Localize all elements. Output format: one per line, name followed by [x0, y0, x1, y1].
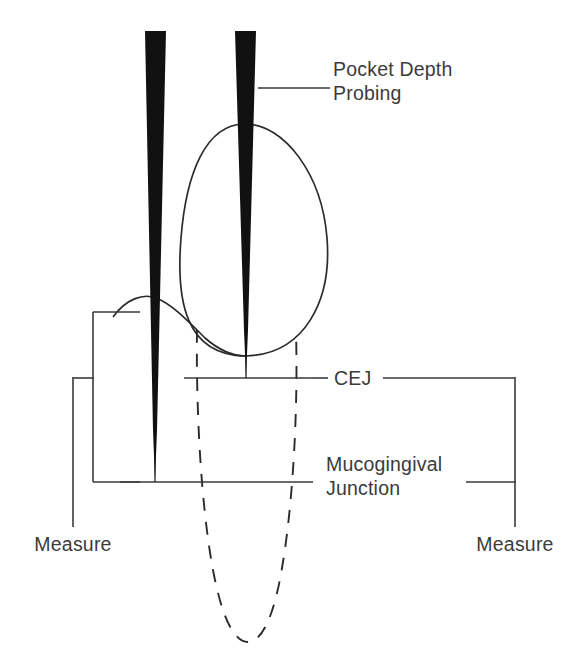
tooth-root-dashed-outline: [197, 330, 297, 642]
cej-label: CEJ: [334, 367, 371, 389]
mucogingival-label-line1: Mucogingival: [326, 453, 442, 475]
gingival-margin-curve: [113, 296, 246, 356]
periodontal-probe-left: [145, 31, 166, 482]
pocket-depth-label-line2: Probing: [333, 82, 402, 104]
tooth-crown-oval: [180, 124, 328, 356]
measure-label-left: Measure: [34, 533, 111, 555]
measure-label-right: Measure: [476, 533, 553, 555]
diagram-canvas: Pocket Depth Probing CEJ Mucogingival Ju…: [0, 0, 583, 669]
mucogingival-label-line2: Junction: [326, 477, 400, 499]
periodontal-diagram: Pocket Depth Probing CEJ Mucogingival Ju…: [0, 0, 583, 669]
pocket-depth-label-line1: Pocket Depth: [333, 58, 452, 80]
